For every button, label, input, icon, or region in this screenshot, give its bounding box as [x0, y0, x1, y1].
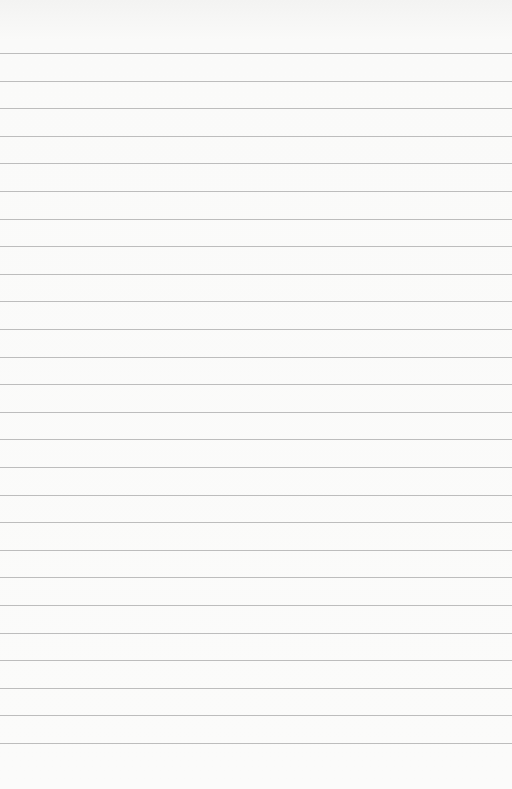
ruled-line [0, 53, 512, 54]
ruled-line [0, 467, 512, 468]
ruled-line [0, 274, 512, 275]
ruled-line [0, 108, 512, 109]
ruled-line [0, 136, 512, 137]
ruled-line [0, 715, 512, 716]
ruled-line [0, 384, 512, 385]
ruled-line [0, 412, 512, 413]
ruled-line [0, 522, 512, 523]
ruled-line [0, 688, 512, 689]
ruled-line [0, 660, 512, 661]
ruled-line [0, 439, 512, 440]
ruled-line [0, 246, 512, 247]
ruled-line [0, 495, 512, 496]
ruled-line [0, 577, 512, 578]
ruled-line [0, 81, 512, 82]
ruled-line [0, 605, 512, 606]
ruled-line [0, 163, 512, 164]
ruled-line [0, 550, 512, 551]
ruled-line [0, 191, 512, 192]
ruled-line [0, 743, 512, 744]
lined-paper [0, 0, 512, 789]
ruled-line [0, 219, 512, 220]
ruled-line [0, 329, 512, 330]
ruled-line [0, 357, 512, 358]
ruled-line [0, 633, 512, 634]
ruled-line [0, 301, 512, 302]
